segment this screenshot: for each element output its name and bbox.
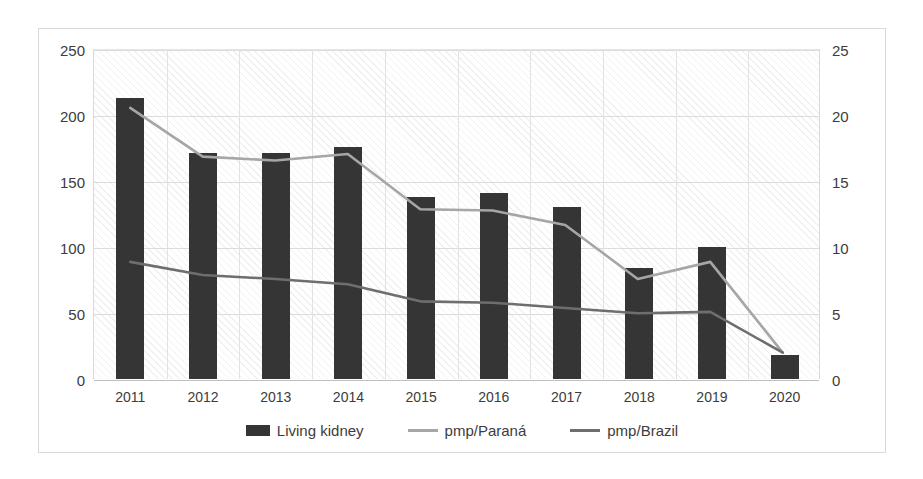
legend-item[interactable]: pmp/Paraná xyxy=(408,422,527,439)
bar xyxy=(334,147,362,379)
gridline-vertical xyxy=(167,50,168,379)
gridline-vertical xyxy=(385,50,386,379)
y-left-tick-label: 50 xyxy=(68,307,85,322)
y-right-tick-label: 0 xyxy=(832,373,840,388)
x-axis-tick-label: 2016 xyxy=(478,389,509,405)
gridline-200 xyxy=(94,116,819,117)
y-right-tick-label: 25 xyxy=(832,43,849,58)
x-axis-tick-label: 2013 xyxy=(260,389,291,405)
legend-label: pmp/Brazil xyxy=(607,422,678,439)
x-axis-tick-label: 2011 xyxy=(115,389,145,405)
legend-bar-swatch-icon xyxy=(246,425,270,436)
legend-item[interactable]: pmp/Brazil xyxy=(570,422,678,439)
gridline-vertical xyxy=(530,50,531,379)
x-axis-tick-label: 2012 xyxy=(187,389,218,405)
x-axis-tick-label: 2017 xyxy=(551,389,582,405)
gridline-vertical xyxy=(458,50,459,379)
y-left-tick-label: 250 xyxy=(60,43,85,58)
legend-label: Living kidney xyxy=(277,422,364,439)
y-right-tick-label: 5 xyxy=(832,307,840,322)
legend-line-swatch-icon xyxy=(408,429,438,432)
x-axis-tick-label: 2015 xyxy=(406,389,437,405)
bar xyxy=(189,153,217,379)
x-axis-tick-label: 2020 xyxy=(769,389,800,405)
y-left-tick-label: 100 xyxy=(60,241,85,256)
x-axis-tick-label: 2014 xyxy=(333,389,364,405)
bar xyxy=(698,247,726,379)
bar xyxy=(625,268,653,379)
bar xyxy=(116,98,144,379)
line-pmp-brazil xyxy=(130,262,783,353)
bar xyxy=(407,197,435,379)
gridline-vertical xyxy=(312,50,313,379)
x-axis-tick-label: 2018 xyxy=(624,389,655,405)
y-right-tick-label: 20 xyxy=(832,109,849,124)
y-left-tick-label: 200 xyxy=(60,109,85,124)
bar xyxy=(553,207,581,379)
bar xyxy=(480,193,508,379)
gridline-vertical xyxy=(676,50,677,379)
plot-area: 050100150200250 0510152025 2011201220132… xyxy=(93,49,820,379)
gridline-250 xyxy=(94,50,819,51)
legend-item[interactable]: Living kidney xyxy=(246,422,364,439)
bar xyxy=(262,153,290,379)
y-right-tick-label: 15 xyxy=(832,175,849,190)
legend-line-swatch-icon xyxy=(570,429,600,432)
chart-legend: Living kidneypmp/Paranápmp/Brazil xyxy=(39,422,885,439)
gridline-vertical xyxy=(239,50,240,379)
gridline-vertical xyxy=(603,50,604,379)
legend-label: pmp/Paraná xyxy=(445,422,527,439)
x-axis-tick-label: 2019 xyxy=(696,389,727,405)
chart-frame: 050100150200250 0510152025 2011201220132… xyxy=(38,28,886,453)
gridline-vertical xyxy=(748,50,749,379)
y-right-tick-label: 10 xyxy=(832,241,849,256)
line-pmp-paran- xyxy=(130,108,783,353)
gridline-0 xyxy=(94,380,819,381)
y-left-tick-label: 150 xyxy=(60,175,85,190)
bar xyxy=(771,355,799,379)
y-left-tick-label: 0 xyxy=(77,373,85,388)
